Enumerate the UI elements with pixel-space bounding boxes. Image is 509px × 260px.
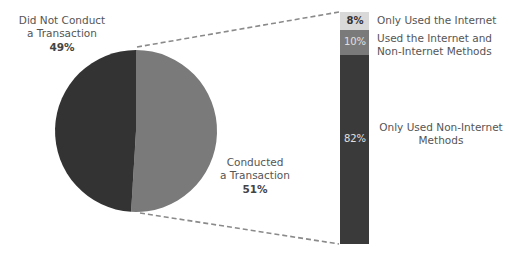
bar-seg3-text: Only Used Non-Internet Methods [377, 121, 505, 147]
bar-seg1-text-line1: Only Used the Internet [377, 14, 496, 26]
label-not-conducted-line1: Did Not Conduct [19, 14, 105, 26]
label-not-conducted-line2: a Transaction [27, 27, 97, 39]
label-not-conducted-pct: 49% [12, 41, 112, 54]
bar-segment-only-non-internet[interactable] [340, 55, 369, 244]
bar-seg2-text: Used the Internet and Non-Internet Metho… [377, 32, 492, 58]
bar-seg2-text-line2: Non-Internet Methods [377, 45, 492, 57]
bar-seg3-pct: 82% [340, 133, 370, 144]
bar-seg1-pct: 8% [340, 15, 370, 26]
connector-top [137, 12, 339, 47]
label-conducted-pct: 51% [205, 183, 305, 196]
bar-seg2-text-line1: Used the Internet and [377, 32, 492, 44]
pie-slice-not-conducted[interactable] [55, 50, 136, 212]
bar-seg3-text-line1: Only Used Non-Internet [379, 121, 502, 133]
connector-bottom [140, 213, 339, 244]
label-conducted-line1: Conducted [227, 156, 284, 168]
bar-seg3-text-line2: Methods [419, 134, 464, 146]
bar-seg1-text: Only Used the Internet [377, 14, 496, 27]
bar-seg2-pct: 10% [340, 36, 370, 47]
label-not-conducted: Did Not Conduct a Transaction 49% [12, 14, 112, 54]
label-conducted-line2: a Transaction [220, 169, 290, 181]
label-conducted: Conducted a Transaction 51% [205, 156, 305, 196]
